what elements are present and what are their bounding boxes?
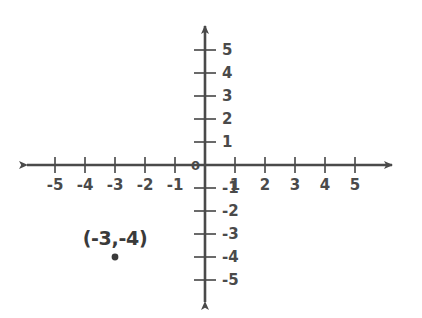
- y-tick-label: 3: [222, 89, 232, 104]
- plotted-points-group: [112, 254, 119, 261]
- plotted-point: [112, 254, 119, 261]
- coordinate-plane: 0 -5-4-3-2-112345 54321-1-2-3-4-5 (-3,-4…: [0, 0, 422, 318]
- x-tick-label: -2: [137, 178, 154, 193]
- x-tick-label: -3: [107, 178, 124, 193]
- y-tick-label: -3: [222, 227, 239, 242]
- x-tick-label: 2: [260, 178, 270, 193]
- y-tick-label: 5: [222, 43, 232, 58]
- y-tick-label: -4: [222, 250, 239, 265]
- x-tick-label: 4: [320, 178, 330, 193]
- origin-label: 0: [191, 159, 200, 172]
- point-coordinate-label: (-3,-4): [83, 229, 148, 248]
- y-tick-label: -1: [222, 181, 239, 196]
- x-tick-label: 5: [350, 178, 360, 193]
- y-tick-label: 1: [222, 135, 232, 150]
- y-tick-label: -2: [222, 204, 239, 219]
- y-tick-label: 4: [222, 66, 232, 81]
- y-tick-label: 2: [222, 112, 232, 127]
- axes-and-points-graphic: [0, 0, 422, 318]
- x-tick-label: -1: [167, 178, 184, 193]
- x-tick-label: -4: [77, 178, 94, 193]
- y-tick-label: -5: [222, 273, 239, 288]
- x-tick-label: -5: [47, 178, 64, 193]
- x-tick-label: 3: [290, 178, 300, 193]
